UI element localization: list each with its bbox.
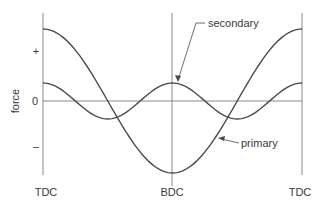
force-diagram: force + 0 – TDC BDC TDC secondary primar… <box>0 0 323 206</box>
primary-annotation: primary <box>241 137 278 149</box>
plus-tick-label: + <box>33 45 39 57</box>
secondary-leader <box>178 23 205 80</box>
secondary-arrowhead <box>175 75 181 82</box>
zero-tick-label: 0 <box>32 95 38 107</box>
bdc-label: BDC <box>160 186 183 198</box>
minus-tick-label: – <box>33 140 40 152</box>
primary-arrowhead <box>218 136 225 141</box>
tdc-left-label: TDC <box>35 186 58 198</box>
y-axis-label: force <box>9 89 21 113</box>
secondary-annotation: secondary <box>208 17 259 29</box>
tdc-right-label: TDC <box>289 186 312 198</box>
